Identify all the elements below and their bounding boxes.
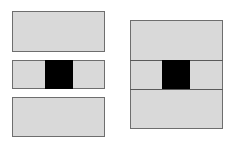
left-bottom-box [12, 97, 105, 137]
left-black-square [45, 60, 73, 89]
right-divider-bottom [130, 89, 223, 90]
right-black-square [162, 60, 190, 89]
left-top-box [12, 11, 105, 52]
